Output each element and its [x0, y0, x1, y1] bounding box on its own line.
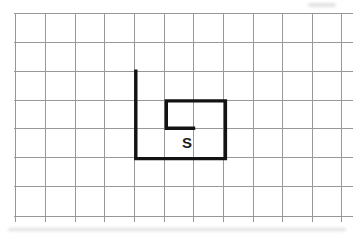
grid-lines	[14, 13, 353, 222]
worksheet-grid-figure: S	[0, 0, 362, 235]
grid-figure-canvas: S	[0, 0, 362, 235]
spiral-path	[136, 70, 226, 159]
start-point-label: S	[182, 134, 192, 151]
